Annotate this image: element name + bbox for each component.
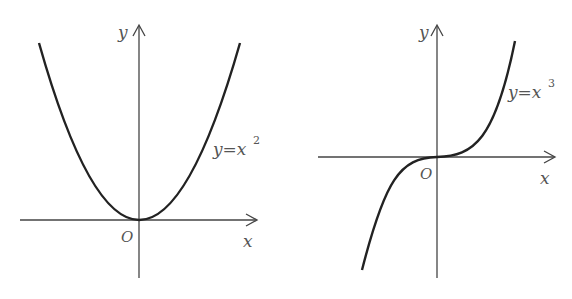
svg-text:y=x: y=x: [507, 82, 542, 102]
x-axis-label: x: [540, 168, 550, 188]
function-label: y=x 2: [212, 134, 260, 159]
y-axis-label: y: [418, 22, 429, 42]
cubic-graph: y x O y=x 3: [318, 22, 555, 278]
svg-text:2: 2: [253, 134, 260, 147]
parabola-graph: y x O y=x 2: [20, 22, 260, 278]
svg-text:y=x: y=x: [212, 139, 247, 159]
function-label: y=x 3: [507, 77, 555, 102]
function-graphs: y x O y=x 2 y x O y=x 3: [0, 0, 572, 299]
origin-label: O: [121, 228, 133, 246]
cubic-curve: [362, 41, 515, 270]
x-axis-label: x: [243, 231, 253, 251]
origin-label: O: [420, 165, 432, 183]
y-axis-label: y: [117, 22, 128, 42]
svg-text:3: 3: [548, 77, 555, 90]
